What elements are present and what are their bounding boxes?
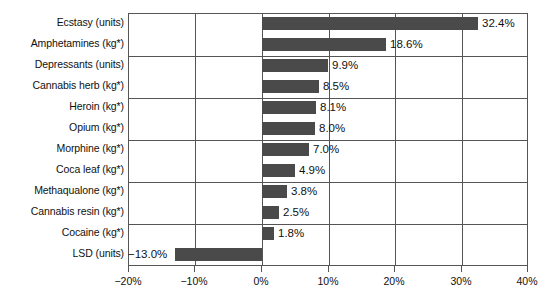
bar-coca-leaf: [262, 164, 295, 177]
axis-tick: [128, 266, 129, 272]
bar-ecstasy: [262, 17, 478, 30]
category-label: Morphine (kg*): [0, 143, 124, 154]
gridline-horizontal: [129, 56, 527, 57]
bar-cannabis-herb: [262, 80, 319, 93]
bar-lsd: [175, 248, 262, 261]
bar-value-label: 32.4%: [482, 17, 515, 30]
axis-tick-label: 0%: [253, 275, 268, 287]
gridline-horizontal: [129, 140, 527, 141]
category-label: Heroin (kg*): [0, 101, 124, 112]
bar-cannabis-resin: [262, 206, 279, 219]
category-label: Amphetamines (kg*): [0, 38, 124, 49]
bar-value-label: 4.9%: [299, 164, 325, 177]
axis-tick-label: 10%: [317, 275, 338, 287]
bar-value-label: 8.1%: [320, 101, 346, 114]
bar-methaqualone: [262, 185, 287, 198]
category-label: Depressants (units): [0, 59, 124, 70]
category-label: Ecstasy (units): [0, 17, 124, 28]
bar-amphetamines: [262, 38, 386, 51]
category-label: Coca leaf (kg*): [0, 164, 124, 175]
bar-value-label: 7.0%: [313, 143, 339, 156]
axis-tick-label: 30%: [450, 275, 471, 287]
gridline-horizontal: [129, 98, 527, 99]
bar-value-label: 18.6%: [390, 38, 423, 51]
gridline-horizontal: [129, 182, 527, 183]
axis-tick-label: −10%: [180, 275, 207, 287]
category-label: Methaqualone (kg*): [0, 185, 124, 196]
axis-tick: [328, 266, 329, 272]
bar-heroin: [262, 101, 316, 114]
category-label: Cannabis resin (kg*): [0, 206, 124, 217]
bar-morphine: [262, 143, 309, 156]
axis-tick-label: 40%: [516, 275, 537, 287]
category-label: Cocaine (kg*): [0, 227, 124, 238]
bar-value-label: 1.8%: [278, 227, 304, 240]
bar-value-label: 3.8%: [291, 185, 317, 198]
bar-chart: Ecstasy (units) Amphetamines (kg*) Depre…: [0, 0, 554, 303]
category-label: LSD (units): [0, 248, 124, 259]
axis-tick: [394, 266, 395, 272]
bar-depressants: [262, 59, 328, 72]
axis-tick-label: −20%: [114, 275, 141, 287]
axis-tick: [194, 266, 195, 272]
bar-value-label: 2.5%: [283, 206, 309, 219]
value-axis: −20% −10% 0% 10% 20% 30% 40%: [128, 266, 528, 303]
category-label: Opium (kg*): [0, 122, 124, 133]
axis-tick-label: 20%: [383, 275, 404, 287]
bar-cocaine: [262, 227, 274, 240]
category-axis: Ecstasy (units) Amphetamines (kg*) Depre…: [0, 13, 124, 266]
bar-value-label: 8.0%: [319, 122, 345, 135]
axis-tick: [527, 266, 528, 272]
bar-value-label: −13.0%: [128, 248, 167, 261]
gridline-horizontal: [129, 224, 527, 225]
bar-value-label: 9.9%: [332, 59, 358, 72]
axis-tick: [461, 266, 462, 272]
plot-area: 32.4% 18.6% 9.9% 8.5% 8.1% 8.0% 7.0% 4.9…: [128, 13, 528, 266]
axis-tick: [261, 266, 262, 272]
bar-value-label: 8.5%: [323, 80, 349, 93]
bar-opium: [262, 122, 315, 135]
category-label: Cannabis herb (kg*): [0, 80, 124, 91]
